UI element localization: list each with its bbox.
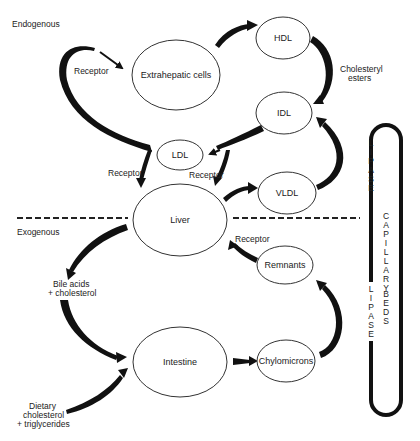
svg-text:IDL: IDL [277, 108, 291, 118]
exogenous-label: Exogenous [17, 227, 60, 237]
node-extrahepatic-cells: Extrahepatic cells [132, 40, 220, 110]
node-idl: IDL [256, 92, 312, 134]
receptor-label-ldl-liver: Receptor [108, 168, 143, 178]
lipase-top-text: L I P A S E [368, 138, 374, 193]
receptor-label-extrahepatic: Receptor [74, 66, 109, 76]
node-hdl: HDL [256, 17, 310, 59]
bile-acids-label-2: + cholesterol [48, 288, 97, 298]
svg-text:Extrahepatic cells: Extrahepatic cells [141, 70, 212, 80]
receptor-label-remnants: Receptor [235, 234, 270, 244]
capillary-text: C A P I L L A R Y [383, 211, 389, 293]
node-intestine: Intestine [133, 327, 227, 397]
svg-text:E: E [368, 329, 374, 339]
node-liver: Liver [133, 184, 227, 256]
svg-text:LDL: LDL [172, 150, 189, 160]
node-ldl: LDL [157, 140, 203, 170]
svg-text:HDL: HDL [274, 33, 292, 43]
dietary-label-3: + triglycerides [17, 419, 70, 429]
svg-text:Chylomicrons: Chylomicrons [259, 356, 314, 366]
svg-text:E: E [368, 183, 374, 193]
arrow-dietary-to-intestine [66, 368, 128, 414]
arrow-chylomicrons-to-remnants [316, 280, 342, 358]
receptor-label-idl-liver: Receptor [189, 170, 224, 180]
arrow-intestine-to-chylomicrons [233, 356, 258, 366]
endogenous-label: Endogenous [12, 19, 60, 29]
arrow-extrahepatic-to-hdl [215, 20, 258, 48]
arrow-liver-to-bile [66, 224, 128, 280]
svg-text:Remnants: Remnants [264, 260, 306, 270]
lipoprotein-metabolism-diagram: Endogenous Exogenous [0, 0, 420, 441]
svg-text:Liver: Liver [170, 215, 190, 225]
svg-text:Intestine: Intestine [163, 357, 197, 367]
beds-text: B E D S [383, 289, 389, 326]
svg-text:S: S [383, 316, 389, 326]
node-chylomicrons: Chylomicrons [257, 340, 315, 382]
cholesteryl-esters-label-2: esters [348, 73, 371, 83]
arrow-vldl-to-idl [316, 117, 343, 190]
node-vldl: VLDL [258, 172, 316, 214]
lipase-bottom-text: L I P A S E [368, 284, 374, 339]
arrow-bile-to-intestine [60, 300, 127, 363]
svg-text:VLDL: VLDL [276, 188, 299, 198]
arrow-liver-to-vldl [223, 182, 258, 202]
arrow-hdl-to-idl [310, 36, 333, 104]
node-remnants: Remnants [257, 246, 313, 284]
